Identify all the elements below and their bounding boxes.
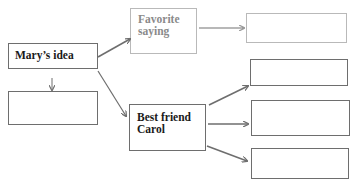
arrow-friend-to-detail-1: [209, 86, 248, 105]
arrow-friend-to-detail-3: [207, 146, 247, 161]
below-idea-box: [8, 91, 98, 125]
arrow-idea-to-friend: [98, 71, 126, 116]
marys-idea-label: Mary’s idea: [15, 49, 74, 62]
friend-detail-2-box: [251, 100, 350, 136]
friend-detail-3-box: [251, 148, 349, 179]
arrow-idea-to-saying: [98, 39, 130, 57]
favorite-saying-label-line2: saying: [138, 25, 169, 38]
saying-detail-box: [246, 13, 347, 43]
best-friend-label-line2: Carol: [137, 123, 165, 136]
friend-detail-1-box: [250, 59, 348, 86]
